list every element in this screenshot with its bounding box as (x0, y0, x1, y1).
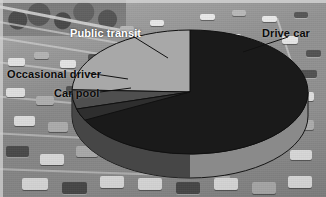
slice-label-occasional-driver: Occasional driver (7, 69, 101, 80)
slice-label-drive-car: Drive car (262, 28, 310, 39)
pie-slice-public-transit[interactable] (72, 30, 190, 92)
slice-label-car-pool: Car pool (54, 88, 99, 99)
pie-slices (72, 30, 308, 154)
pie-chart-image: Public transit Drive car Occasional driv… (0, 0, 326, 197)
slice-label-public-transit: Public transit (70, 28, 141, 39)
